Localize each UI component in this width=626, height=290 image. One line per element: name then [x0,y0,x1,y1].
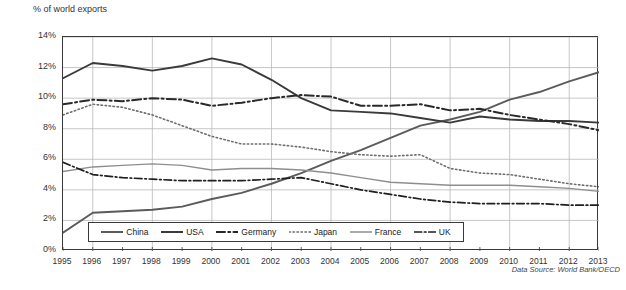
legend-swatch-germany [216,228,238,236]
plot-area [62,36,598,250]
y-tick-label: 6% [22,152,56,162]
legend-label-uk: UK [439,227,451,237]
y-tick-label: 0% [22,244,56,254]
legend-item-japan[interactable]: Japan [289,227,337,237]
legend-label-france: France [375,227,401,237]
legend-swatch-usa [161,228,183,236]
chart-container: % of world exports 0%2%4%6%8%10%12%14% 1… [0,0,626,290]
y-tick-label: 2% [22,213,56,223]
legend-label-usa: USA [186,227,203,237]
legend-label-china: China [126,227,148,237]
y-tick-label: 10% [22,91,56,101]
legend-swatch-uk [414,228,436,236]
chart-legend: ChinaUSAGermanyJapanFranceUK [88,222,464,242]
legend-swatch-china [101,228,123,236]
legend-label-japan: Japan [314,227,337,237]
legend-swatch-japan [289,228,311,236]
y-tick-label: 14% [22,30,56,40]
legend-swatch-france [350,228,372,236]
y-tick-label: 4% [22,183,56,193]
chart-svg [63,37,599,251]
y-tick-label: 12% [22,61,56,71]
legend-item-uk[interactable]: UK [414,227,451,237]
y-tick-label: 8% [22,122,56,132]
source-note: Data Source: World Bank/OECD [452,265,620,274]
legend-item-france[interactable]: France [350,227,401,237]
legend-item-china[interactable]: China [101,227,148,237]
legend-item-germany[interactable]: Germany [216,227,276,237]
legend-label-germany: Germany [241,227,276,237]
legend-item-usa[interactable]: USA [161,227,203,237]
y-axis-title: % of world exports [22,4,118,15]
